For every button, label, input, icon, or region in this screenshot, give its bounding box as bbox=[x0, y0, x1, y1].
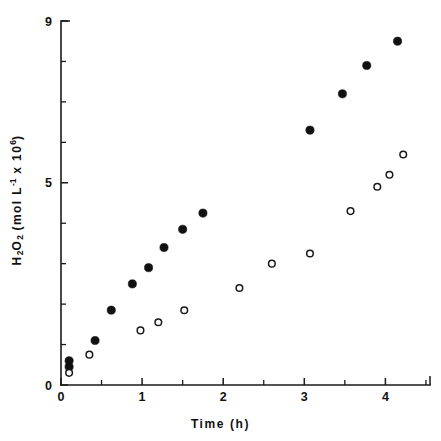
y-tick-label: 0 bbox=[45, 379, 52, 393]
data-point-open bbox=[347, 208, 354, 215]
y-tick-label: 9 bbox=[45, 15, 52, 29]
data-point-open bbox=[307, 250, 314, 257]
data-point-filled bbox=[306, 126, 314, 134]
figure-container: 01234059 H2O2 (mol L-1 x 106) Time (h) bbox=[0, 0, 441, 441]
data-point-open bbox=[181, 307, 188, 314]
data-point-filled bbox=[179, 225, 187, 233]
data-point-filled bbox=[160, 243, 168, 251]
x-tick-label: 4 bbox=[382, 390, 389, 404]
data-point-open bbox=[386, 171, 393, 178]
data-point-filled bbox=[107, 306, 115, 314]
data-point-filled bbox=[91, 336, 99, 344]
ticks-group bbox=[61, 21, 426, 385]
data-point-open bbox=[155, 319, 162, 326]
data-point-filled bbox=[363, 61, 371, 69]
data-series-group bbox=[65, 37, 407, 376]
data-point-filled bbox=[144, 264, 152, 272]
series-open-circles bbox=[66, 151, 407, 376]
series-filled-circles bbox=[65, 37, 402, 371]
tick-labels-group: 01234059 bbox=[45, 15, 389, 405]
data-point-open bbox=[66, 370, 73, 377]
axes-group bbox=[61, 21, 430, 385]
data-point-open bbox=[269, 260, 276, 267]
x-tick-label: 2 bbox=[220, 390, 227, 404]
data-point-filled bbox=[338, 90, 346, 98]
data-point-open bbox=[137, 327, 144, 334]
x-tick-label: 0 bbox=[58, 390, 65, 404]
data-point-open bbox=[236, 285, 243, 292]
x-tick-label: 3 bbox=[301, 390, 308, 404]
y-axis-title-wrap: H2O2 (mol L-1 x 106) bbox=[0, 0, 34, 400]
x-tick-label: 1 bbox=[139, 390, 146, 404]
data-point-filled bbox=[393, 37, 401, 45]
data-point-open bbox=[374, 184, 381, 191]
data-point-open bbox=[400, 151, 407, 158]
data-point-filled bbox=[128, 280, 136, 288]
y-tick-label: 5 bbox=[45, 176, 52, 190]
y-axis-title: H2O2 (mol L-1 x 106) bbox=[10, 135, 24, 266]
data-point-open bbox=[86, 351, 93, 358]
data-point-filled bbox=[199, 209, 207, 217]
x-axis-title: Time (h) bbox=[0, 417, 441, 431]
scatter-plot: 01234059 bbox=[0, 0, 441, 441]
